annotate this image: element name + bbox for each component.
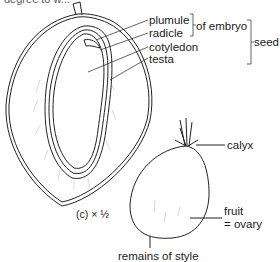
- label-fruit: fruit: [224, 205, 243, 217]
- halved-fruit: [6, 2, 152, 206]
- label-radicle: radicle: [149, 27, 183, 39]
- label-of-embryo: of embryo: [196, 20, 247, 32]
- label-seed: seed: [254, 36, 279, 48]
- label-calyx: calyx: [227, 139, 253, 151]
- whole-fruit: [130, 118, 225, 248]
- label-testa: testa: [149, 53, 174, 65]
- label-ovary: = ovary: [224, 218, 262, 230]
- label-remains-of-style: remains of style: [118, 250, 199, 262]
- label-cotyledon: cotyledon: [149, 41, 198, 53]
- section-label: (c) × ½: [76, 208, 109, 220]
- label-plumule: plumule: [149, 14, 189, 26]
